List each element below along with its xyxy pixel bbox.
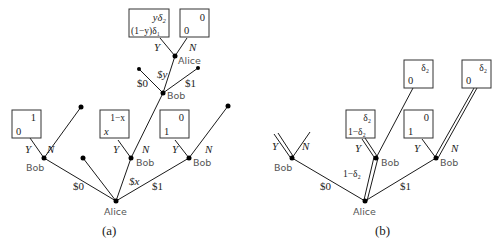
label-a-bob1-no: N: [204, 143, 213, 155]
payoff-a-alice-yes-top: yδ₂: [152, 12, 167, 23]
label-a-alice-no: N: [188, 41, 197, 53]
payoff-b-mid-no-top: δ₂: [421, 63, 429, 73]
payoff-a-bob0-yes-bottom: 0: [16, 126, 21, 137]
label-a-bob-counter: Bob: [167, 90, 185, 101]
node-a-terminal-mid: [81, 156, 86, 161]
label-a-bob-1: Bob: [193, 157, 211, 168]
offer-a-counter-y: $y: [157, 68, 168, 80]
node-a-bob-x: [129, 156, 134, 161]
label-a-alice-response: Alice: [178, 55, 201, 66]
payoff-a-bob1-yes-top: 0: [179, 112, 184, 123]
node-a-alice-response: [173, 54, 178, 59]
edge-a-bob0-yes: [30, 138, 44, 158]
payoff-a-bob1-yes-bottom: 1: [164, 126, 169, 137]
caption-b: (b): [375, 223, 390, 238]
label-a-alice-root: Alice: [104, 206, 127, 217]
payoff-a-bobx-yes-bottom: x: [103, 126, 109, 137]
label-a-bob0-yes: Y: [25, 143, 33, 155]
payoff-b-one-no-bottom: 0: [466, 75, 471, 86]
edge-b-bob0-yes-line2: [278, 133, 293, 156]
offer-b-mid: 1−δ₂: [343, 169, 361, 179]
payoff-a-alice-no-bottom: 0: [184, 25, 189, 36]
payoff-a-bobx-yes-top: 1−x: [110, 113, 125, 123]
caption-a: (a): [102, 223, 116, 238]
label-b-bob-1: Bob: [440, 157, 458, 168]
payoff-a-alice-yes-bottom: (1−y)δ₁: [131, 26, 160, 37]
node-b-bob-1: [434, 156, 439, 161]
label-b-bobmid-yes: Y: [355, 142, 363, 154]
label-b-bob-0: Bob: [274, 162, 292, 173]
offer-b-0: $0: [320, 180, 332, 192]
node-b-bob-mid: [374, 156, 379, 161]
offer-a-counter-1: $1: [185, 77, 196, 89]
label-a-bob-x: Bob: [136, 157, 154, 168]
payoff-a-bob0-yes-top: 1: [31, 112, 36, 123]
node-b-alice-root: [363, 199, 368, 204]
edge-a-offer-mid: [83, 158, 116, 201]
label-b-bob-mid: Bob: [381, 157, 399, 168]
node-a-terminal-counter-0: [137, 67, 141, 71]
payoff-b-one-yes-top: 0: [424, 112, 429, 123]
offer-a-0: $0: [73, 180, 85, 192]
node-a-alice-root: [114, 199, 119, 204]
label-a-bobx-yes: Y: [113, 143, 121, 155]
node-a-terminal-counter-1: [196, 66, 200, 70]
label-b-bob1-no: N: [450, 142, 459, 154]
payoff-b-one-no-top: δ₂: [479, 63, 487, 73]
label-a-bobx-no: N: [141, 143, 150, 155]
payoff-b-mid-no-bottom: 0: [408, 75, 413, 86]
payoff-b-mid-yes-bottom: 1−δ₂: [348, 127, 366, 137]
panel-a: 1 0 1−x x 0 1 yδ₂ (1−y)δ₁ 0 0 Alice Bob …: [12, 9, 231, 238]
game-tree-figure: 1 0 1−x x 0 1 yδ₂ (1−y)δ₁ 0 0 Alice Bob …: [0, 0, 498, 248]
payoff-b-mid-yes-top: δ₂: [363, 113, 371, 123]
panel-b: δ₂ 1−δ₂ 0 1 δ₂ 0 δ₂ 0 Alice Bob Bob Bob …: [272, 60, 491, 238]
node-b-bob-0: [290, 156, 295, 161]
offer-b-1: $1: [400, 180, 411, 192]
edge-b-bob1-yes: [422, 139, 436, 158]
node-a-bob-1: [187, 156, 192, 161]
edge-a-alice-yes: [160, 38, 175, 56]
offer-a-x: $x: [129, 175, 140, 187]
label-b-bob0-yes: Y: [272, 140, 280, 152]
node-a-terminal-bob0-no: [79, 105, 84, 110]
edge-a-alice-no: [175, 38, 187, 56]
edge-a-bobx-yes: [118, 140, 131, 158]
node-a-bob-0: [42, 156, 47, 161]
offer-a-1: $1: [152, 180, 163, 192]
node-a-terminal-bob1-no: [226, 104, 231, 109]
label-b-alice-root: Alice: [353, 206, 376, 217]
label-a-alice-yes: Y: [154, 41, 162, 53]
payoff-b-one-yes-bottom: 1: [408, 126, 413, 137]
label-a-bob-0: Bob: [26, 162, 44, 173]
label-b-bob0-no: N: [301, 140, 310, 152]
label-b-bob1-yes: Y: [414, 142, 422, 154]
label-a-bob0-no: N: [46, 143, 55, 155]
payoff-a-alice-no-top: 0: [200, 12, 205, 23]
offer-a-counter-0: $0: [137, 77, 149, 89]
node-a-bob-counter: [161, 91, 166, 96]
